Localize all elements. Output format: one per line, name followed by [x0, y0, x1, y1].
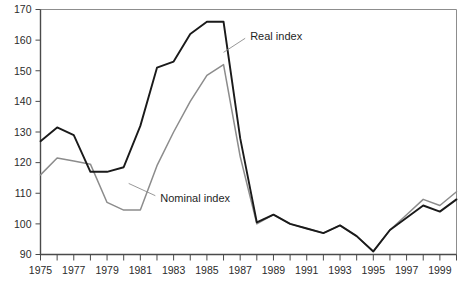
- x-tick-label: 1981: [129, 264, 153, 276]
- y-tick-label: 170: [14, 3, 32, 15]
- y-axis-tick-labels: 90100110120130140150160170: [14, 3, 32, 260]
- plot-border: [41, 10, 457, 255]
- y-tick-label: 150: [14, 65, 32, 77]
- x-tick-label: 1991: [295, 264, 319, 276]
- x-tick-label: 1993: [328, 264, 352, 276]
- x-tick-label: 1977: [62, 264, 86, 276]
- x-tick-label: 1975: [29, 264, 53, 276]
- y-tick-label: 130: [14, 126, 32, 138]
- x-tick-label: 1985: [195, 264, 219, 276]
- x-tick-label: 1997: [395, 264, 419, 276]
- y-tick-label: 110: [15, 187, 32, 199]
- chart-container: 90100110120130140150160170 1975197719791…: [0, 0, 465, 284]
- axis-ticks: [36, 10, 457, 261]
- y-tick-label: 90: [20, 248, 32, 260]
- y-tick-label: 160: [14, 34, 32, 46]
- x-axis-tick-labels: 1975197719791981198319851987198919911993…: [29, 264, 452, 276]
- nominal-index-label-leader: [129, 183, 156, 195]
- x-tick-label: 1995: [362, 264, 386, 276]
- y-tick-label: 100: [14, 218, 32, 230]
- x-tick-label: 1989: [262, 264, 286, 276]
- x-tick-label: 1987: [229, 264, 253, 276]
- x-tick-label: 1999: [428, 264, 452, 276]
- series-line-nominal-index: [41, 65, 457, 252]
- x-tick-label: 1983: [162, 264, 186, 276]
- y-tick-label: 120: [14, 156, 32, 168]
- series-line-real-index: [41, 22, 457, 252]
- chart-frame: [41, 10, 457, 255]
- axis-lines: [41, 10, 457, 255]
- series-annotations: Real indexNominal index: [129, 30, 303, 204]
- data-series-group: [41, 22, 457, 252]
- x-tick-label: 1979: [95, 264, 119, 276]
- y-tick-label: 140: [14, 95, 32, 107]
- line-chart: 90100110120130140150160170 1975197719791…: [0, 0, 465, 284]
- real-index-label: Real index: [250, 30, 302, 42]
- nominal-index-label: Nominal index: [160, 192, 230, 204]
